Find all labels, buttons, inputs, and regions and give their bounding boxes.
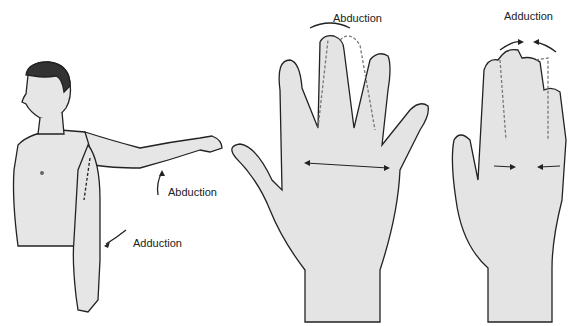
hand-adduction-panel (452, 39, 566, 322)
arm-abduction-label: Abduction (168, 186, 217, 198)
hand-adduction-label: Adduction (504, 10, 553, 22)
arm-adduction-label: Adduction (133, 237, 182, 249)
hand-abduction-panel (232, 23, 429, 322)
hand-abduction-label: Abduction (333, 12, 382, 24)
illustration (0, 0, 586, 326)
